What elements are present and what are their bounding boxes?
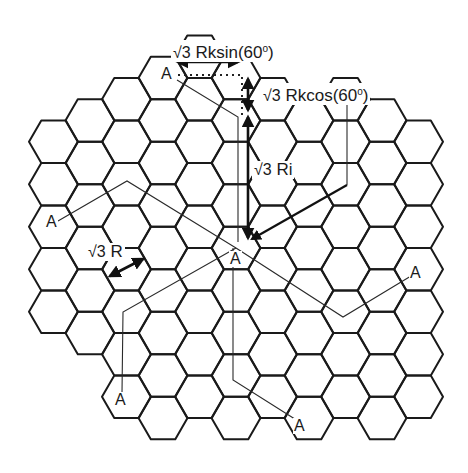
cellular-reuse-diagram: √3 Rksin(60o) √3 Rkcos(60o) √3 Ri √3 R A… [0, 0, 468, 473]
cell-label-a-bottom-left: A [114, 392, 127, 408]
rk-vector-arrow [252, 185, 347, 239]
hex-cell [139, 269, 188, 312]
hex-cell [139, 184, 188, 227]
hex-cell [29, 291, 78, 334]
hex-cell [394, 291, 443, 334]
hex-cell [102, 333, 151, 376]
hex-cell [66, 312, 115, 355]
sqrt-symbol: √3 [263, 87, 281, 104]
cell-label-a-top: A [160, 66, 173, 82]
hex-cell [248, 333, 297, 376]
sqrt-symbol: √3 [88, 243, 106, 260]
hex-cell [321, 291, 370, 334]
hex-cell [285, 312, 334, 355]
hex-cell [285, 227, 334, 269]
hex-cell [212, 184, 261, 227]
hex-cell [102, 121, 151, 164]
hex-grid [0, 0, 468, 473]
hex-cell [102, 163, 151, 206]
hex-cell [212, 269, 261, 312]
hex-cell [102, 291, 151, 334]
hex-cell [394, 376, 443, 419]
label-sqrt3-ri: √3 Ri [252, 161, 294, 179]
hex-cell [139, 312, 188, 355]
hex-cell [175, 121, 224, 164]
hex-cell [321, 121, 370, 164]
hex-cell [66, 99, 115, 142]
hex-cell [285, 269, 334, 312]
hex-cell [139, 354, 188, 397]
hex-cell [321, 333, 370, 376]
hex-cell [248, 121, 297, 164]
hex-cell [212, 312, 261, 355]
hex-cell [358, 142, 407, 185]
hex-cell [358, 227, 407, 269]
hex-cell [66, 184, 115, 227]
hex-cell [248, 248, 297, 291]
hex-cell [394, 206, 443, 249]
hex-cell [358, 397, 407, 440]
hex-cell [175, 376, 224, 419]
hex-cell [321, 206, 370, 249]
hex-cell [212, 397, 261, 440]
hex-cell [175, 78, 224, 121]
hex-cell [394, 163, 443, 206]
hex-cell [66, 269, 115, 312]
hex-cell [175, 333, 224, 376]
hex-cell [358, 99, 407, 142]
hex-cell [358, 269, 407, 312]
hex-cell [29, 121, 78, 164]
hex-cell [139, 397, 188, 440]
hex-cell [139, 142, 188, 185]
hexagon-cells [29, 36, 443, 440]
hex-cell [175, 291, 224, 334]
hex-cell [66, 142, 115, 185]
hex-cell [358, 184, 407, 227]
hex-cell [285, 397, 334, 440]
hex-cell [139, 227, 188, 269]
sqrt-symbol: √3 [173, 44, 191, 61]
hex-cell [285, 354, 334, 397]
cell-label-a-bottom-right: A [293, 418, 306, 434]
hex-cell [175, 163, 224, 206]
hex-cell [358, 354, 407, 397]
label-sqrt3-rkcos60: √3 Rkcos(60o) [261, 83, 370, 105]
label-sqrt3-rksin60: √3 Rksin(60o) [171, 40, 276, 62]
hex-cell [248, 376, 297, 419]
label-sqrt3-r: √3 R [86, 243, 125, 261]
hex-cell [29, 248, 78, 291]
hex-cell [358, 312, 407, 355]
hex-cell [175, 206, 224, 249]
r-double-arrow [110, 259, 143, 276]
hex-cell [394, 121, 443, 164]
hex-cell [29, 163, 78, 206]
cell-label-a-center: A [229, 251, 242, 267]
hex-cell [102, 78, 151, 121]
hex-cell [212, 354, 261, 397]
hex-cell [248, 291, 297, 334]
cell-label-a-left: A [45, 214, 58, 230]
hex-cell [394, 333, 443, 376]
hex-cell [139, 99, 188, 142]
sqrt-symbol: √3 [254, 161, 272, 178]
path-bottom-right [233, 248, 298, 421]
hex-cell [321, 248, 370, 291]
dotted-construction-lines [178, 75, 242, 116]
hex-cell [321, 163, 370, 206]
hex-cell [285, 99, 334, 142]
hex-cell [321, 376, 370, 419]
cell-label-a-right: A [409, 265, 422, 281]
